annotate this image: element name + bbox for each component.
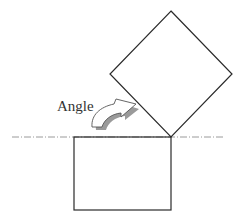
rotated-square <box>110 11 232 137</box>
angle-label: Angle <box>57 98 94 114</box>
angle-diagram: Angle <box>0 0 246 223</box>
base-rectangle <box>74 137 171 210</box>
